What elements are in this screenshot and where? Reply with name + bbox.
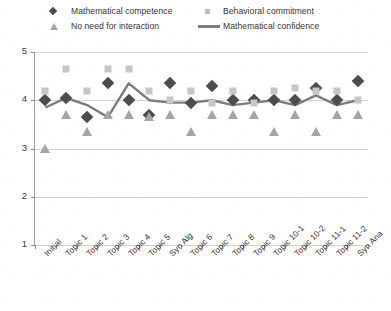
line-icon [198,21,220,31]
legend-item-no-need-for-interaction: No need for interaction [46,21,159,31]
data-point-triangle [228,110,238,119]
data-point-triangle [82,127,92,136]
data-point-square [229,87,236,94]
chart-legend: Mathematical competence Behavioral commi… [46,6,376,40]
confidence-line-series [35,52,368,245]
legend-label: Behavioral commitment [223,6,314,16]
data-point-triangle [124,110,134,119]
data-point-triangle [290,110,300,119]
data-point-square [292,85,299,92]
data-point-triangle [61,110,71,119]
legend-item-behavioral-commitment: Behavioral commitment [198,6,314,16]
data-point-square [271,87,278,94]
data-point-triangle [144,112,154,121]
legend-label: Mathematical confidence [223,21,319,31]
data-point-triangle [269,127,279,136]
data-point-square [354,97,361,104]
y-tick-label: 1 [13,238,27,249]
data-point-triangle [207,110,217,119]
legend-label: Mathematical competence [71,6,172,16]
data-point-triangle [249,110,259,119]
data-point-triangle [332,110,342,119]
data-point-triangle [311,127,321,136]
plot-area: 12345 InitialTopic 1Topic 2Topic 3Topic … [35,52,368,245]
data-point-square [63,65,70,72]
data-point-triangle [40,144,50,153]
data-point-square [125,65,132,72]
legend-item-mathematical-competence: Mathematical competence [46,6,172,16]
legend-label: No need for interaction [71,21,159,31]
data-point-square [42,87,49,94]
data-point-square [146,87,153,94]
y-tick-label: 5 [13,45,27,56]
data-point-triangle [165,110,175,119]
chart-figure: Mathematical competence Behavioral commi… [0,0,391,311]
data-point-triangle [353,110,363,119]
y-tick-label: 2 [13,190,27,201]
triangle-icon [46,21,68,31]
data-point-square [250,99,257,106]
data-point-square [84,87,91,94]
data-point-triangle [186,127,196,136]
y-tick-label: 3 [13,142,27,153]
x-tick-mark [35,245,36,249]
data-point-square [104,65,111,72]
diamond-icon [46,6,68,16]
data-point-square [188,87,195,94]
square-icon [198,6,220,16]
legend-item-mathematical-confidence: Mathematical confidence [198,21,319,31]
data-point-triangle [103,110,113,119]
y-tick-label: 4 [13,93,27,104]
data-point-square [333,87,340,94]
data-point-square [167,97,174,104]
data-point-square [208,99,215,106]
data-point-square [312,87,319,94]
